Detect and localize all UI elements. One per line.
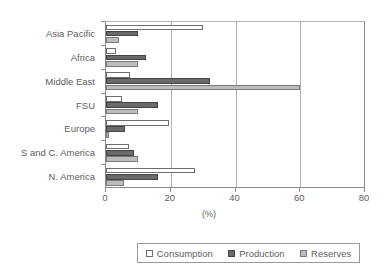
bar-production [106,174,158,180]
y-axis-label: Europe [64,123,95,134]
x-axis-tick-label: 20 [164,192,175,203]
bar-consumption [106,120,169,126]
y-axis-label: Africa [71,51,95,62]
bar-chart: N. AmericaS and C. AmericaEuropeFSUMiddl… [0,0,388,270]
y-axis-label: FSU [76,99,95,110]
y-axis-tick [101,93,105,94]
x-axis-tick-label: 0 [102,192,107,203]
legend-item-production[interactable]: Production [228,248,284,259]
y-axis-labels: N. AmericaS and C. AmericaEuropeFSUMiddl… [0,21,101,188]
bar-group [106,141,364,165]
x-axis-title: (%) [0,209,388,219]
bar-consumption [106,48,116,54]
x-axis-tick-label: 40 [229,192,240,203]
legend-label: Reserves [311,248,351,259]
bar-group [106,117,364,141]
bar-production [106,150,134,156]
y-axis-label: Asia Pacific [46,27,95,38]
bar-group [106,70,364,94]
bar-consumption [106,96,122,102]
bar-production [106,126,125,132]
bar-production [106,102,158,108]
bar-production [106,55,146,61]
legend-swatch-icon [300,250,307,257]
plot-area [105,21,365,188]
y-axis-tick [101,69,105,70]
bar-reserves [106,61,138,67]
legend-label: Consumption [157,248,213,259]
bar-consumption [106,72,130,78]
legend-swatch-icon [146,250,153,257]
legend-item-consumption[interactable]: Consumption [146,248,213,259]
x-axis-tick-label: 80 [359,192,370,203]
y-axis-tick [101,21,105,22]
bar-reserves [106,132,109,138]
x-axis-tick-label: 60 [294,192,305,203]
bar-group [106,46,364,70]
bar-production [106,78,210,84]
bar-reserves [106,156,138,162]
bar-reserves [106,180,124,186]
bar-reserves [106,37,119,43]
bar-reserves [106,85,300,91]
bar-consumption [106,144,129,150]
bar-production [106,31,138,37]
y-axis-label: S and C. America [21,147,95,158]
bar-group [106,165,364,189]
legend-swatch-icon [228,250,235,257]
y-axis-tick [101,116,105,117]
bar-consumption [106,25,203,31]
bar-group [106,22,364,46]
x-axis-title-text: (%) [202,209,216,219]
bar-consumption [106,168,195,174]
y-axis-tick [101,140,105,141]
bar-group [106,94,364,118]
chart-legend: ConsumptionProductionReserves [137,243,360,263]
y-axis-tick [101,164,105,165]
y-axis-label: N. America [49,171,95,182]
y-axis-label: Middle East [45,75,95,86]
y-axis-tick [101,45,105,46]
bar-reserves [106,109,138,115]
legend-label: Production [239,248,284,259]
legend-item-reserves[interactable]: Reserves [300,248,351,259]
